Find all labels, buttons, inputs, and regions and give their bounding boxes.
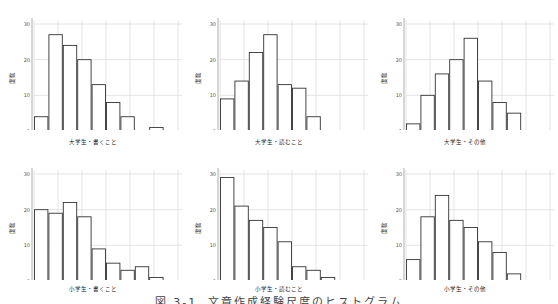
histogram-bar — [150, 277, 163, 280]
y-tick-label: 20 — [396, 57, 402, 63]
histogram-bar — [249, 220, 262, 280]
histogram-bar — [35, 210, 48, 280]
histogram-bar — [63, 203, 76, 280]
y-axis-label: 度数 — [194, 72, 202, 84]
histogram-bar — [107, 102, 120, 130]
y-tick-label: 30 — [210, 21, 216, 27]
x-axis-label: 大学生・その他 — [372, 138, 558, 146]
y-tick-label: 10 — [210, 92, 216, 98]
histogram-bar — [135, 267, 148, 280]
histogram-bar — [235, 206, 248, 280]
histogram-bar — [92, 249, 105, 280]
y-tick-label: 30 — [396, 171, 402, 177]
y-tick-label: 20 — [210, 57, 216, 63]
plot-area: 01020301.01.52.02.53.03.54.0度数 — [186, 150, 372, 280]
histogram-bar — [450, 60, 463, 130]
figure-caption: 図 3-1. 文章作成経験尺度のヒストグラム — [0, 296, 558, 304]
histogram-bar — [278, 242, 291, 280]
histogram-bar — [121, 270, 134, 280]
bars — [221, 35, 321, 130]
x-axis-label: 小学生・その他 — [372, 285, 558, 293]
histogram-bar — [307, 117, 320, 130]
histogram-university-other: 01020301.01.52.02.53.03.54.0度数 大学生・その他 — [372, 0, 558, 145]
y-tick-label: 0 — [27, 128, 30, 130]
histogram-bar — [450, 220, 463, 280]
y-tick-label: 10 — [396, 92, 402, 98]
histogram-bar — [435, 74, 448, 130]
bars — [407, 38, 521, 130]
histogram-bar — [63, 45, 76, 130]
histogram-bar — [121, 117, 134, 130]
histogram-bar — [221, 99, 234, 130]
plot-area: 01020301.01.52.02.53.03.54.0度数 — [0, 150, 186, 280]
x-axis-label: 大学生・読むこと — [186, 138, 372, 146]
histogram-bar — [293, 88, 306, 130]
histogram-bar — [235, 81, 248, 130]
histogram-bar — [435, 195, 448, 280]
histogram-bar — [264, 228, 277, 281]
y-tick-label: 10 — [396, 242, 402, 248]
bars — [221, 178, 335, 280]
histogram-bar — [307, 270, 320, 280]
histogram-bar — [249, 53, 262, 130]
plot-area: 01020301.01.52.02.53.03.54.0度数 — [372, 0, 558, 130]
bars — [35, 35, 164, 130]
y-tick-label: 30 — [210, 171, 216, 177]
y-axis-label: 度数 — [380, 222, 388, 234]
x-axis-label: 小学生・読むこと — [186, 285, 372, 293]
histogram-bar — [221, 178, 234, 280]
histogram-bar — [293, 267, 306, 280]
histogram-bar — [421, 217, 434, 280]
histogram-bar — [92, 85, 105, 130]
y-tick-label: 30 — [24, 21, 30, 27]
y-tick-label: 0 — [213, 128, 216, 130]
y-tick-label: 10 — [24, 242, 30, 248]
histogram-bar — [264, 35, 277, 130]
histogram-bar — [150, 127, 163, 130]
y-tick-label: 30 — [396, 21, 402, 27]
y-tick-label: 20 — [24, 207, 30, 213]
histogram-bar — [507, 274, 520, 280]
y-tick-label: 20 — [24, 57, 30, 63]
histogram-bar — [78, 60, 91, 130]
y-tick-label: 0 — [213, 278, 216, 280]
plot-area: 01020301.01.52.02.53.03.54.0度数 — [186, 0, 372, 130]
y-tick-label: 10 — [210, 242, 216, 248]
histogram-bar — [407, 260, 420, 280]
histogram-bar — [479, 242, 492, 280]
histogram-elementary-reading: 01020301.01.52.02.53.03.54.0度数 小学生・読むこと — [186, 150, 372, 295]
histogram-university-writing: 01020301.01.52.02.53.03.54.0度数 大学生・書くこと — [0, 0, 186, 145]
histogram-bar — [278, 85, 291, 130]
histogram-bar — [507, 113, 520, 130]
histogram-bar — [421, 95, 434, 130]
y-tick-label: 0 — [399, 128, 402, 130]
y-tick-label: 30 — [24, 171, 30, 177]
y-tick-label: 10 — [24, 92, 30, 98]
plot-area: 01020301.01.52.02.53.03.54.0度数 — [372, 150, 558, 280]
histogram-bar — [321, 277, 334, 280]
y-axis-label: 度数 — [194, 222, 202, 234]
y-tick-label: 20 — [210, 207, 216, 213]
histogram-bar — [493, 252, 506, 280]
histogram-bar — [78, 217, 91, 280]
y-axis-label: 度数 — [8, 72, 16, 84]
histogram-bar — [479, 81, 492, 130]
histogram-bar — [493, 102, 506, 130]
histogram-bar — [407, 124, 420, 130]
y-axis-label: 度数 — [380, 72, 388, 84]
histogram-bar — [107, 263, 120, 280]
bars — [35, 203, 164, 280]
histogram-university-reading: 01020301.01.52.02.53.03.54.0度数 大学生・読むこと — [186, 0, 372, 145]
x-axis-label: 小学生・書くこと — [0, 285, 186, 293]
histogram-bar — [35, 117, 48, 130]
y-tick-label: 0 — [399, 278, 402, 280]
bars — [407, 195, 521, 280]
histogram-elementary-other: 01020301.01.52.02.53.03.54.0度数 小学生・その他 — [372, 150, 558, 295]
plot-area: 01020301.01.52.02.53.03.54.0度数 — [0, 0, 186, 130]
histogram-bar — [49, 213, 62, 280]
histogram-bar — [464, 228, 477, 281]
histogram-bar — [49, 35, 62, 130]
histogram-elementary-writing: 01020301.01.52.02.53.03.54.0度数 小学生・書くこと — [0, 150, 186, 295]
histogram-bar — [464, 38, 477, 130]
x-axis-label: 大学生・書くこと — [0, 138, 186, 146]
